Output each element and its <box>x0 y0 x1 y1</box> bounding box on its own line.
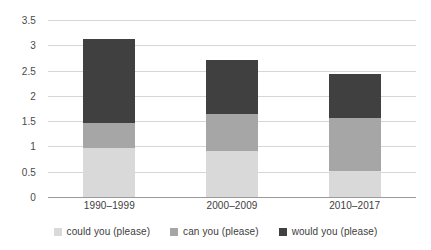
bar-segment <box>206 60 258 114</box>
chart-legend: could you (please)can you (please)would … <box>0 226 431 237</box>
legend-swatch-icon <box>279 228 287 236</box>
stacked-bar-chart: 00.511.522.533.5 1990–19992000–20092010–… <box>0 0 431 250</box>
legend-item[interactable]: could you (please) <box>54 226 151 237</box>
y-tick-label: 0.5 <box>22 166 36 177</box>
gridline-0 <box>48 197 416 198</box>
bar-segment <box>329 171 381 197</box>
bar-group <box>206 20 258 197</box>
bar-segment <box>329 74 381 119</box>
bar-segment <box>206 151 258 197</box>
y-tick-label: 1.5 <box>22 116 36 127</box>
bar-segment <box>83 39 135 123</box>
legend-label: would you (please) <box>292 226 378 237</box>
x-axis-labels: 1990–19992000–20092010–2017 <box>48 200 416 216</box>
legend-label: could you (please) <box>67 226 151 237</box>
y-tick-label: 2.5 <box>22 65 36 76</box>
x-tick-label: 2000–2009 <box>207 200 258 211</box>
bar-series-container <box>48 20 416 197</box>
y-tick-label: 0 <box>30 192 36 203</box>
legend-swatch-icon <box>170 228 178 236</box>
legend-item[interactable]: can you (please) <box>170 226 259 237</box>
bar-group <box>83 20 135 197</box>
bar-segment <box>206 114 258 151</box>
legend-item[interactable]: would you (please) <box>279 226 378 237</box>
y-tick-label: 2 <box>30 90 36 101</box>
plot-area <box>48 20 416 197</box>
bar-segment <box>83 148 135 197</box>
y-tick-label: 3 <box>30 40 36 51</box>
x-tick-label: 2010–2017 <box>329 200 380 211</box>
legend-label: can you (please) <box>183 226 259 237</box>
legend-swatch-icon <box>54 228 62 236</box>
bar-group <box>329 20 381 197</box>
bar-segment <box>329 118 381 171</box>
bar-segment <box>83 123 135 148</box>
y-tick-label: 1 <box>30 141 36 152</box>
x-tick-label: 1990–1999 <box>84 200 135 211</box>
y-axis-labels: 00.511.522.533.5 <box>0 20 42 197</box>
y-tick-label: 3.5 <box>22 15 36 26</box>
